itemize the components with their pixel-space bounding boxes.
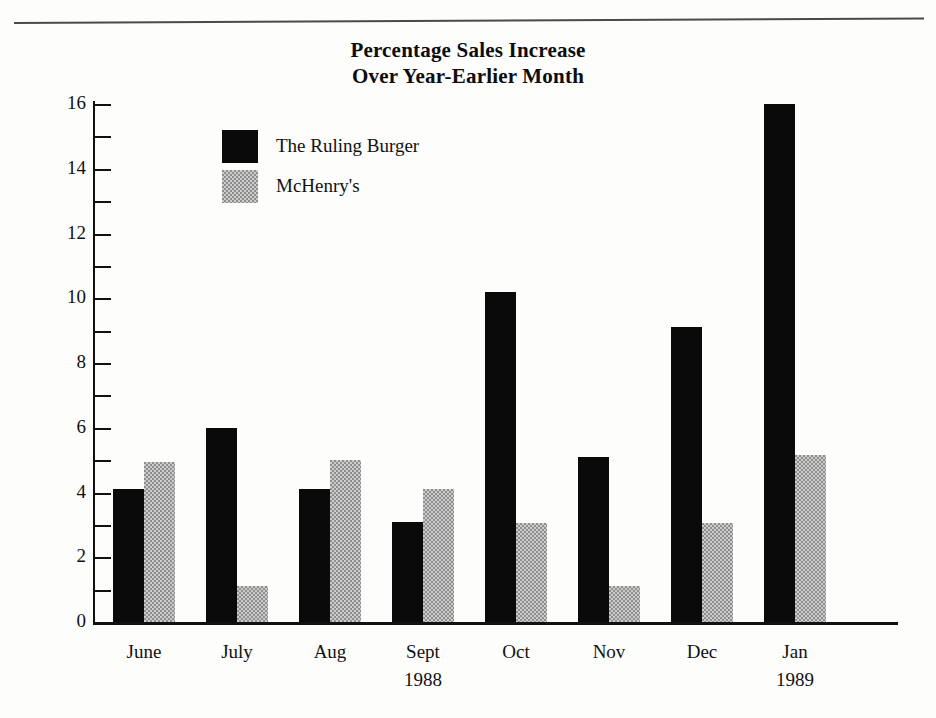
x-tick-label-month: Dec — [687, 641, 718, 662]
bar-jan-mchenrys — [795, 455, 826, 622]
x-tick-label-month: Sept — [406, 641, 440, 662]
y-tick-label-2: 2 — [40, 545, 86, 567]
bar-june-mchenrys — [144, 462, 175, 622]
legend-label-series-0: The Ruling Burger — [276, 135, 419, 157]
plot-area: 0246810121416 JuneJulyAugSept1988OctNovD… — [0, 0, 936, 718]
y-tick-major-6 — [95, 428, 111, 430]
y-tick-major-16 — [95, 104, 111, 106]
y-tick-major-0 — [95, 622, 111, 624]
bar-oct-ruling-burger — [485, 292, 516, 622]
y-tick-label-6: 6 — [40, 416, 86, 438]
bar-aug-mchenrys — [330, 460, 361, 622]
y-tick-label-16: 16 — [40, 92, 86, 114]
x-tick-label-aug: Aug — [280, 638, 380, 666]
bar-aug-ruling-burger — [299, 489, 330, 622]
y-tick-minor-5 — [95, 460, 111, 462]
y-tick-minor-13 — [95, 201, 111, 203]
bar-sept-mchenrys — [423, 489, 454, 622]
y-tick-major-4 — [95, 493, 111, 495]
bar-oct-mchenrys — [516, 523, 547, 622]
legend-swatch-icon-series-1 — [222, 170, 258, 203]
x-tick-label-sept: Sept1988 — [373, 638, 473, 693]
y-tick-minor-9 — [95, 331, 111, 333]
chart-page: Percentage Sales Increase Over Year-Earl… — [0, 0, 936, 718]
bar-june-ruling-burger — [113, 489, 144, 622]
y-tick-minor-11 — [95, 266, 111, 268]
y-tick-minor-1 — [95, 590, 111, 592]
bar-july-mchenrys — [237, 586, 268, 622]
x-tick-label-july: July — [187, 638, 287, 666]
y-tick-minor-15 — [95, 136, 111, 138]
x-tick-label-nov: Nov — [559, 638, 659, 666]
legend-label-series-1: McHenry's — [276, 175, 360, 197]
x-tick-label-year: 1988 — [373, 666, 473, 694]
bar-jan-ruling-burger — [764, 104, 795, 622]
bar-nov-mchenrys — [609, 586, 640, 622]
y-tick-major-10 — [95, 298, 111, 300]
y-tick-minor-7 — [95, 395, 111, 397]
legend-item-1: McHenry's — [222, 166, 419, 206]
chart-legend: The Ruling Burger McHenry's — [222, 126, 419, 206]
x-tick-label-month: Jan — [782, 641, 807, 662]
y-tick-label-0: 0 — [40, 610, 86, 632]
bar-dec-mchenrys — [702, 523, 733, 622]
y-tick-label-8: 8 — [40, 351, 86, 373]
x-tick-label-month: Oct — [502, 641, 529, 662]
y-tick-major-8 — [95, 363, 111, 365]
y-tick-minor-3 — [95, 525, 111, 527]
x-tick-label-oct: Oct — [466, 638, 566, 666]
x-tick-label-month: June — [127, 641, 162, 662]
x-tick-label-month: July — [221, 641, 253, 662]
y-tick-major-2 — [95, 557, 111, 559]
y-tick-label-4: 4 — [40, 481, 86, 503]
bar-nov-ruling-burger — [578, 457, 609, 622]
y-tick-label-12: 12 — [40, 222, 86, 244]
bar-sept-ruling-burger — [392, 522, 423, 622]
legend-swatch-icon-series-0 — [222, 130, 258, 163]
bar-dec-ruling-burger — [671, 327, 702, 622]
y-tick-major-12 — [95, 234, 111, 236]
x-tick-label-month: Aug — [314, 641, 347, 662]
y-tick-label-14: 14 — [40, 157, 86, 179]
x-tick-label-jan: Jan1989 — [745, 638, 845, 693]
x-axis-line — [93, 622, 898, 625]
bar-july-ruling-burger — [206, 428, 237, 622]
legend-item-0: The Ruling Burger — [222, 126, 419, 166]
y-tick-major-14 — [95, 169, 111, 171]
x-tick-label-year: 1989 — [745, 666, 845, 694]
x-tick-label-june: June — [94, 638, 194, 666]
y-tick-label-10: 10 — [40, 286, 86, 308]
x-tick-label-month: Nov — [593, 641, 626, 662]
x-tick-label-dec: Dec — [652, 638, 752, 666]
